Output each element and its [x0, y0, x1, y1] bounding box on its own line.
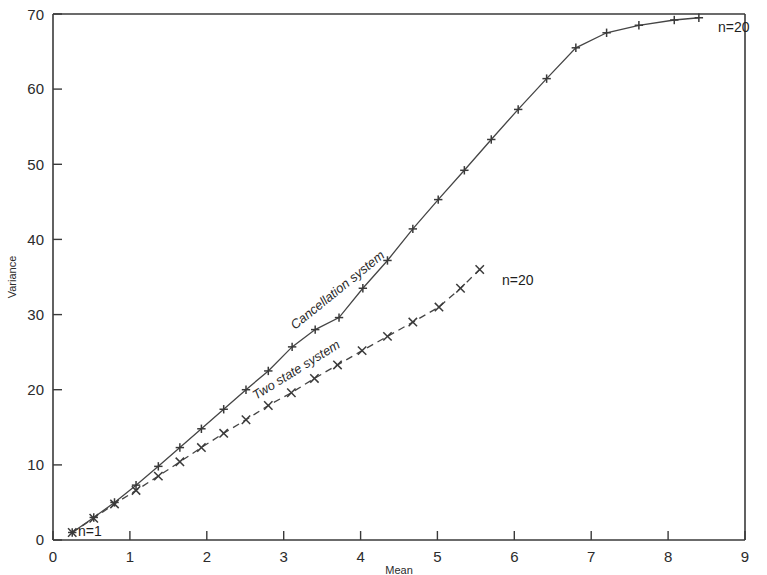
x-tick-label-7: 7	[587, 548, 595, 565]
annotation-n-end-solid: n=20	[718, 19, 750, 35]
x-axis-title: Mean	[385, 564, 413, 575]
x-tick-label-5: 5	[433, 548, 441, 565]
annotation-n-end-dashed: n=20	[502, 272, 534, 288]
x-tick-label-1: 1	[126, 548, 134, 565]
y-tick-label-50: 50	[27, 156, 44, 173]
y-axis-title: Variance	[6, 256, 18, 299]
x-tick-label-9: 9	[741, 548, 749, 565]
annotation-n-start: n=1	[78, 523, 102, 539]
y-tick-label-10: 10	[27, 456, 44, 473]
chart-figure: 0 10 20 30 40 50 60 70 0 1 2 3 4 5	[0, 0, 767, 575]
y-tick-label-40: 40	[27, 231, 44, 248]
y-tick-label-60: 60	[27, 80, 44, 97]
y-tick-label-0: 0	[36, 531, 44, 548]
chart-background	[0, 0, 767, 575]
x-tick-label-3: 3	[280, 548, 288, 565]
y-tick-label-20: 20	[27, 381, 44, 398]
x-tick-label-4: 4	[356, 548, 364, 565]
x-tick-label-0: 0	[49, 548, 57, 565]
y-tick-label-70: 70	[27, 6, 44, 23]
x-tick-label-2: 2	[203, 548, 211, 565]
variance-vs-mean-chart: 0 10 20 30 40 50 60 70 0 1 2 3 4 5	[0, 0, 767, 575]
x-tick-label-6: 6	[510, 548, 518, 565]
y-tick-label-30: 30	[27, 306, 44, 323]
x-tick-label-8: 8	[664, 548, 672, 565]
